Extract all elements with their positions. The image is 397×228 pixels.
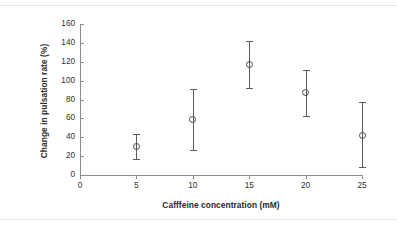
y-tick-label: 160	[35, 20, 75, 28]
error-bar-cap-upper	[246, 41, 253, 42]
x-tick-mark	[193, 175, 194, 179]
y-tick-mark	[80, 137, 84, 138]
error-bar-cap-lower	[190, 150, 197, 151]
y-tick-label: 100	[35, 77, 75, 85]
x-tick-label: 25	[342, 182, 382, 190]
x-axis-title: Cafffeine concentration (mM)	[80, 200, 362, 210]
error-bar-cap-upper	[359, 102, 366, 103]
x-tick-mark	[249, 175, 250, 179]
y-tick-label: 40	[35, 133, 75, 141]
x-tick-mark	[306, 175, 307, 179]
x-tick-mark	[362, 175, 363, 179]
x-tick-mark	[136, 175, 137, 179]
error-bar-cap-upper	[190, 89, 197, 90]
x-tick-mark	[80, 175, 81, 179]
data-marker	[359, 132, 366, 139]
scatter-chart: Change in pulsation rate (%) 02040608010…	[0, 0, 397, 228]
error-bar-cap-lower	[246, 88, 253, 89]
figure-container: Change in pulsation rate (%) 02040608010…	[0, 0, 397, 228]
error-bar-cap-lower	[133, 159, 140, 160]
error-bar-cap-lower	[303, 116, 310, 117]
x-tick-label: 10	[173, 182, 213, 190]
y-tick-mark	[80, 118, 84, 119]
y-tick-mark	[80, 62, 84, 63]
x-tick-label: 20	[286, 182, 326, 190]
x-tick-label: 15	[229, 182, 269, 190]
y-tick-mark	[80, 43, 84, 44]
error-bar-cap-upper	[133, 134, 140, 135]
y-tick-mark	[80, 81, 84, 82]
data-marker	[133, 143, 140, 150]
x-tick-label: 0	[60, 182, 100, 190]
y-tick-label: 60	[35, 114, 75, 122]
error-bar-cap-upper	[303, 70, 310, 71]
data-marker	[246, 61, 253, 68]
y-tick-mark	[80, 100, 84, 101]
y-tick-label: 120	[35, 58, 75, 66]
y-tick-label: 0	[35, 171, 75, 179]
y-tick-mark	[80, 24, 84, 25]
y-tick-mark	[80, 156, 84, 157]
x-tick-label: 5	[116, 182, 156, 190]
y-tick-label: 20	[35, 152, 75, 160]
data-marker	[302, 89, 309, 96]
error-bar-cap-lower	[359, 167, 366, 168]
y-tick-label: 140	[35, 39, 75, 47]
y-tick-label: 80	[35, 96, 75, 104]
x-axis-line	[80, 175, 362, 176]
data-marker	[189, 116, 196, 123]
